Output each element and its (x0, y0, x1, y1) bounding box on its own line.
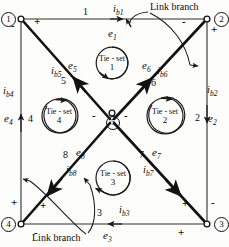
tieset-1-number: 1 (92, 63, 132, 72)
figure-canvas: 1 2 3 4 5 1 2 3 4 5 6 7 8 e1 e2 e3 e4 e5… (0, 0, 229, 247)
node-label-5: 5 (106, 116, 120, 130)
current-subscript-ib7: b7 (146, 169, 154, 178)
current-label-ib5: ib5 (51, 66, 61, 79)
tieset-3-number: 3 (93, 178, 133, 187)
tieset-3-label: Tie - set 3 (93, 169, 133, 187)
tieset-4-number: 4 (39, 116, 79, 125)
tieset-1-label: Tie - set 1 (92, 54, 132, 72)
node-dot-2 (204, 16, 210, 22)
polarity-mark-branch6-node5: - (124, 110, 128, 121)
voltage-label-e6: e6 (142, 60, 151, 74)
current-label-ib6: ib6 (157, 66, 167, 79)
tieset-2-number: 2 (145, 116, 185, 125)
polarity-mark-branch1-node2: - (182, 16, 186, 27)
polarity-mark-branch4-node4: + (11, 197, 17, 208)
current-label-ib8: ib8 (66, 165, 76, 178)
node-dot-4 (18, 221, 24, 227)
current-subscript-ib4: b4 (6, 90, 14, 99)
voltage-subscript-e8: 8 (81, 152, 85, 161)
voltage-label-e5: e5 (68, 60, 77, 74)
current-label-ib3: ib3 (119, 205, 129, 218)
link-branch-callout-bottom: Link branch (32, 233, 81, 243)
branch-number-2: 2 (195, 113, 200, 123)
node-label-3: 3 (214, 217, 229, 232)
tieset-4-label: Tie - set 4 (39, 107, 79, 125)
current-subscript-ib5: b5 (54, 70, 62, 79)
current-label-ib1: ib1 (113, 4, 123, 17)
current-subscript-ib1: b1 (116, 8, 124, 17)
voltage-subscript-e5: 5 (73, 65, 77, 74)
tieset-2-label: Tie - set 2 (145, 107, 185, 125)
voltage-subscript-e7: 7 (157, 152, 161, 161)
branch-number-1: 1 (83, 7, 88, 17)
branch-number-4: 4 (28, 114, 33, 124)
voltage-subscript-e6: 6 (147, 65, 151, 74)
polarity-mark-branch8-node4: + (40, 200, 46, 211)
branch-number-8: 8 (63, 150, 68, 160)
voltage-label-e4: e4 (4, 113, 13, 127)
voltage-subscript-e2: 2 (213, 118, 217, 127)
voltage-label-e2: e2 (208, 113, 217, 127)
polarity-mark-branch3-node3: + (178, 227, 184, 238)
branch-number-6: 6 (151, 78, 156, 88)
voltage-label-e7: e7 (152, 147, 161, 161)
node-dot-3 (204, 221, 210, 227)
node-dot-1 (18, 16, 24, 22)
branch-number-7: 7 (139, 150, 144, 160)
polarity-mark-branch5-node5: - (92, 110, 96, 121)
link-branch-callout-top: Link branch (150, 2, 199, 12)
current-subscript-ib6: b6 (160, 70, 168, 79)
voltage-label-e8: e8 (76, 147, 85, 161)
polarity-mark-branch1-node1: + (34, 16, 40, 27)
polarity-mark-branch7-node3: + (182, 198, 188, 209)
polarity-mark-branch2-node2: + (211, 24, 217, 35)
voltage-subscript-e1: 1 (113, 33, 117, 42)
current-subscript-ib8: b8 (69, 169, 77, 178)
current-label-ib7: ib7 (143, 165, 153, 178)
voltage-subscript-e3: 3 (108, 235, 112, 244)
polarity-mark-branch4-node1: - (11, 20, 15, 31)
branch-number-3: 3 (97, 208, 102, 218)
current-subscript-ib2: b2 (210, 89, 218, 98)
current-label-ib2: ib2 (207, 85, 217, 98)
polarity-mark-branch2-node3: - (211, 197, 215, 208)
voltage-label-e1: e1 (108, 28, 117, 42)
branch-number-5: 5 (61, 76, 66, 86)
voltage-label-e3: e3 (103, 230, 112, 244)
voltage-subscript-e4: 4 (9, 118, 13, 127)
current-label-ib4: ib4 (3, 86, 13, 99)
current-subscript-ib3: b3 (122, 209, 130, 218)
node-label-4: 4 (1, 217, 16, 232)
